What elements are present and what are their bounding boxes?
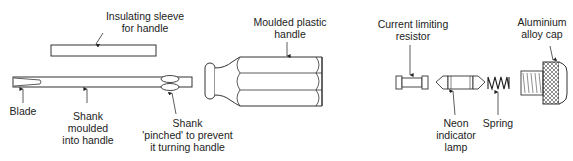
label-line: Shank	[135, 117, 240, 129]
label-line: alloy cap	[512, 28, 572, 40]
label-line: Aluminium	[512, 16, 572, 28]
label-line: Blade	[5, 105, 41, 117]
spring	[488, 77, 509, 89]
label-line: lamp	[428, 141, 484, 153]
label-line: it turning handle	[135, 141, 240, 153]
label-shank-moulded: Shank moulded into handle	[55, 110, 121, 146]
shank-pinched-arrow	[172, 93, 176, 114]
label-neon-lamp: Neon indicator lamp	[428, 117, 484, 153]
label-moulded-handle: Moulded plastic handle	[245, 16, 335, 40]
moulded-handle	[205, 57, 322, 106]
label-spring: Spring	[478, 117, 518, 129]
label-line: Moulded plastic	[245, 16, 335, 28]
neon-indicator-lamp	[436, 76, 485, 89]
lamp-arrow	[453, 91, 455, 115]
label-line: into handle	[55, 134, 121, 146]
label-line: 'pinched' to prevent	[135, 129, 240, 141]
label-line: Shank	[55, 110, 121, 122]
label-line: indicator	[428, 129, 484, 141]
label-cap: Aluminium alloy cap	[512, 16, 572, 40]
current-limiting-resistor	[396, 76, 428, 89]
label-line: handle	[245, 28, 335, 40]
label-resistor: Current limiting resistor	[373, 18, 453, 42]
label-insulating-sleeve: Insulating sleeve for handle	[85, 10, 205, 34]
cap-arrow	[550, 46, 553, 60]
label-shank-pinched: Shank 'pinched' to prevent it turning ha…	[135, 117, 240, 153]
label-blade: Blade	[5, 105, 41, 117]
label-line: Current limiting	[373, 18, 453, 30]
aluminium-alloy-cap	[521, 62, 567, 104]
label-line: Insulating sleeve	[85, 10, 205, 22]
label-line: moulded	[55, 122, 121, 134]
label-line: resistor	[373, 30, 453, 42]
label-line: Neon	[428, 117, 484, 129]
label-line: for handle	[85, 22, 205, 34]
insulating-sleeve	[51, 45, 156, 56]
sleeve-arrow	[96, 33, 103, 44]
label-line: Spring	[478, 117, 518, 129]
blade-shank	[13, 76, 192, 91]
